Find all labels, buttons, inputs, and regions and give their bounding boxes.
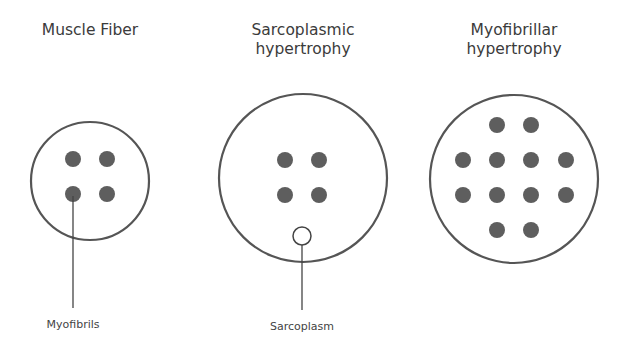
myofibril-dot <box>455 152 471 168</box>
sarcoplasmic-cross-section <box>219 94 387 310</box>
myofibril-dot <box>65 151 81 167</box>
myofibril-dot <box>455 187 471 203</box>
myofibril-dot <box>311 152 327 168</box>
myofibril-dot <box>311 187 327 203</box>
myofibril-dot <box>558 152 574 168</box>
myofibril-dot <box>489 152 505 168</box>
myofibril-dot <box>558 187 574 203</box>
myofibril-dot <box>489 187 505 203</box>
myofibril-dot <box>523 222 539 238</box>
myofibril-dot <box>523 152 539 168</box>
myofibril-dot <box>489 222 505 238</box>
fiber-outline <box>31 122 149 240</box>
muscle-fiber-cross-section <box>31 122 149 308</box>
myofibril-dot <box>99 186 115 202</box>
myofibril-dot <box>523 117 539 133</box>
callout-label-myofibrils: Myofibrils <box>33 318 113 331</box>
hypertrophy-diagram <box>0 0 627 359</box>
fiber-outline <box>430 95 598 263</box>
myofibril-dot <box>277 152 293 168</box>
myofibril-dot <box>277 187 293 203</box>
myofibril-dot <box>99 151 115 167</box>
myofibrillar-cross-section <box>430 95 598 263</box>
myofibril-dot <box>489 117 505 133</box>
callout-label-sarcoplasm: Sarcoplasm <box>257 320 347 333</box>
myofibril-dot <box>523 187 539 203</box>
sarcoplasm-marker <box>293 227 311 245</box>
